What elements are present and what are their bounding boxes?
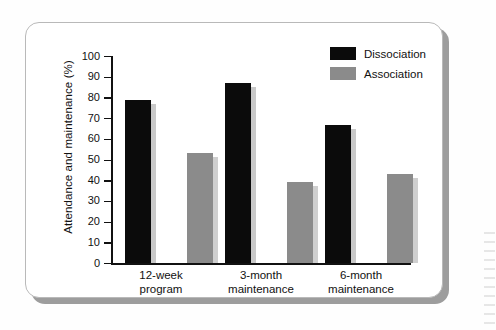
y-tick-label: 80 [70,92,100,103]
bar-group [111,56,211,263]
y-tick-mark [104,77,111,78]
bar-dissociation [325,125,351,263]
page-edge-artifact [484,232,495,324]
bar-side-highlight [151,104,156,264]
y-tick-label: 20 [70,216,100,227]
bar-body [287,182,313,263]
bar-dissociation [125,100,151,264]
x-tick-label-line: maintenance [206,282,316,296]
y-tick-label: 90 [70,71,100,82]
bar-side-highlight [413,178,418,263]
legend-swatch-dissociation [330,47,356,60]
y-tick-label: 100 [70,51,100,62]
y-tick-label: 50 [70,154,100,165]
bar-series-container [111,56,411,263]
legend-item-dissociation: Dissociation [330,45,426,62]
bar-association [187,153,213,263]
x-tick-label: 12-weekprogram [106,268,216,296]
x-tick-label-line: maintenance [306,282,416,296]
y-tick-mark [104,56,111,57]
y-tick-label: 60 [70,133,100,144]
y-tick-mark [104,118,111,119]
y-tick-label: 70 [70,113,100,124]
y-tick-mark [104,160,111,161]
x-axis-line [111,263,411,265]
y-tick-mark [104,201,111,202]
bar-body [387,174,413,263]
legend-swatch-association [330,67,356,80]
bar-association [387,174,413,263]
x-tick-label: 3-monthmaintenance [206,268,316,296]
bar-body [187,153,213,263]
bar-side-highlight [251,87,256,263]
y-tick-label: 40 [70,175,100,186]
y-tick-mark [104,242,111,243]
bar-association [287,182,313,263]
figure-page: Attendance and maintenance (%) 010203040… [0,0,496,330]
bar-body [225,83,251,263]
legend-label-association: Association [364,68,423,80]
x-tick-label-line: 12-week [106,268,216,282]
y-tick-label: 30 [70,195,100,206]
figure-card: Attendance and maintenance (%) 010203040… [25,22,443,298]
bar-body [125,100,151,264]
chart-plot-area: Attendance and maintenance (%) 010203040… [26,23,444,299]
y-tick-mark [104,139,111,140]
legend-item-association: Association [330,65,426,82]
y-tick-mark [104,97,111,98]
bar-body [325,125,351,263]
x-tick-label: 6-monthmaintenance [306,268,416,296]
chart-legend: Dissociation Association [330,45,426,85]
y-tick-mark [104,222,111,223]
y-tick-label: 0 [70,258,100,269]
y-tick-mark [104,263,111,264]
bar-dissociation [225,83,251,263]
y-tick-label: 10 [70,237,100,248]
bar-side-highlight [351,129,356,263]
y-tick-mark [104,180,111,181]
x-tick-label-line: program [106,282,216,296]
x-tick-label-line: 3-month [206,268,316,282]
bar-group [211,56,311,263]
bar-group [311,56,411,263]
x-tick-label-line: 6-month [306,268,416,282]
legend-label-dissociation: Dissociation [364,48,426,60]
